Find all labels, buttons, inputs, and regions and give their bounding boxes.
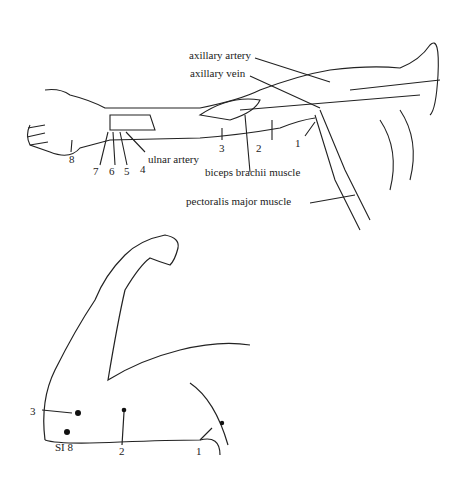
label-axillary-artery: axillary artery [189, 50, 251, 61]
point-7: 7 [93, 166, 99, 177]
point-bottom-3: 3 [30, 406, 36, 417]
label-biceps-brachii: biceps brachii muscle [205, 167, 300, 178]
point-4: 4 [140, 164, 146, 175]
point-1: 1 [295, 138, 301, 149]
label-axillary-vein: axillary vein [190, 68, 245, 79]
point-3: 3 [219, 143, 225, 154]
label-pectoralis-major: pectoralis major muscle [186, 196, 291, 207]
point-6: 6 [109, 166, 115, 177]
bottom-arm-outline [44, 235, 250, 440]
label-ulnar-artery: ulnar artery [148, 154, 199, 165]
point-bottom-2: 2 [119, 446, 125, 457]
point-bottom-1: 1 [196, 446, 202, 457]
point-2: 2 [256, 143, 262, 154]
point-8: 8 [69, 154, 75, 165]
point-5: 5 [124, 166, 130, 177]
point-si8: SI 8 [55, 442, 73, 453]
